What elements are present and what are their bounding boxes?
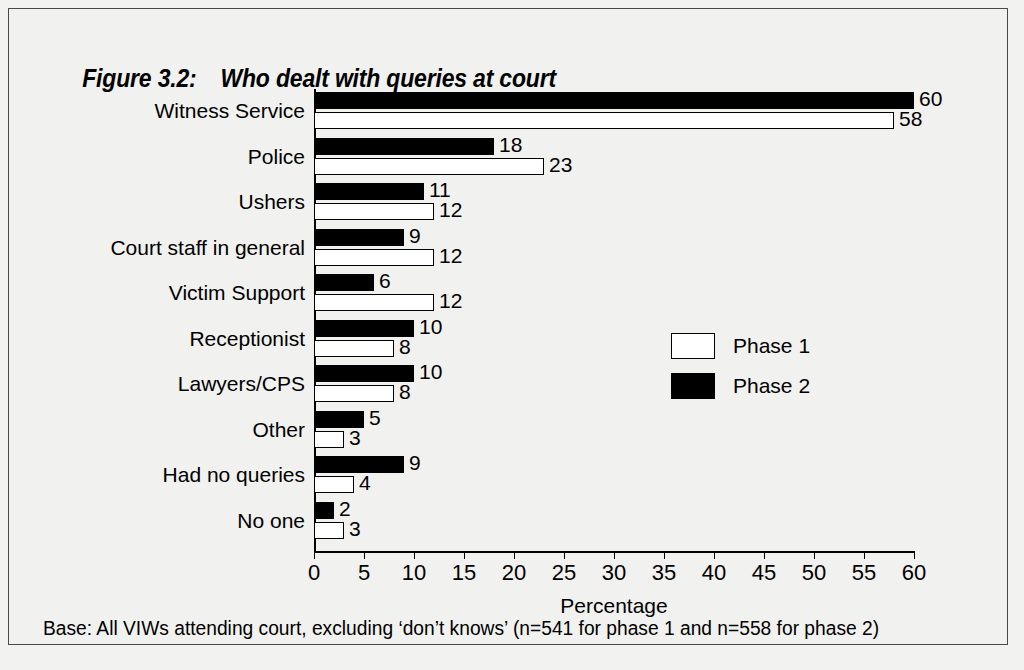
category-label: Ushers — [238, 191, 305, 213]
x-tick — [714, 551, 715, 559]
x-tick — [764, 551, 765, 559]
x-tick-label: 60 — [894, 561, 934, 585]
legend-label: Phase 1 — [733, 331, 810, 361]
x-tick — [664, 551, 665, 559]
legend-swatch-phase1 — [671, 333, 715, 359]
bar-value-label: 12 — [439, 247, 462, 264]
bar-value-label: 11 — [429, 181, 451, 198]
bar-value-label: 2 — [339, 500, 351, 517]
chart-plot-area: Witness Service6058Police1823Ushers1112C… — [314, 89, 914, 551]
category-label: Court staff in general — [110, 237, 305, 259]
bar-value-label: 3 — [349, 520, 361, 537]
figure-frame: Figure 3.2:Who dealt with queries at cou… — [8, 8, 1008, 645]
bar-phase-1 — [314, 158, 544, 175]
bar-phase-2 — [314, 229, 404, 246]
bar-phase-1 — [314, 249, 434, 266]
bar-value-label: 60 — [919, 90, 942, 107]
bar-value-label: 9 — [409, 227, 421, 244]
x-tick-label: 45 — [744, 561, 784, 585]
bar-phase-1 — [314, 294, 434, 311]
bar-value-label: 3 — [349, 429, 361, 446]
legend-swatch-phase2 — [671, 373, 715, 399]
x-axis-label: Percentage — [314, 594, 914, 618]
bar-phase-1 — [314, 431, 344, 448]
bar-phase-2 — [314, 411, 364, 428]
x-tick — [914, 551, 915, 559]
bar-phase-2 — [314, 92, 914, 109]
x-tick-label: 20 — [494, 561, 534, 585]
category-label: Had no queries — [163, 464, 305, 486]
bar-value-label: 8 — [399, 338, 411, 355]
x-tick — [614, 551, 615, 559]
bar-phase-1 — [314, 385, 394, 402]
x-tick-label: 15 — [444, 561, 484, 585]
bar-value-label: 23 — [549, 156, 572, 173]
bar-phase-1 — [314, 112, 894, 129]
category-label: No one — [237, 510, 305, 532]
bar-phase-2 — [314, 274, 374, 291]
figure-page: Figure 3.2:Who dealt with queries at cou… — [0, 0, 1024, 670]
x-tick — [514, 551, 515, 559]
x-tick — [414, 551, 415, 559]
category-label: Victim Support — [169, 282, 305, 304]
category-label: Receptionist — [189, 328, 305, 350]
x-tick-label: 0 — [294, 561, 334, 585]
category-label: Lawyers/CPS — [178, 373, 305, 395]
x-tick — [314, 551, 315, 559]
figure-footnote: Base: All VIWs attending court, excludin… — [43, 617, 879, 640]
x-tick-label: 10 — [394, 561, 434, 585]
bar-value-label: 8 — [399, 383, 411, 400]
x-tick — [564, 551, 565, 559]
bar-value-label: 10 — [419, 318, 442, 335]
x-tick — [814, 551, 815, 559]
x-tick-label: 50 — [794, 561, 834, 585]
category-label: Witness Service — [154, 100, 305, 122]
x-tick-label: 25 — [544, 561, 584, 585]
bar-value-label: 58 — [899, 110, 922, 127]
figure-number: Figure 3.2: — [82, 64, 196, 92]
x-tick — [364, 551, 365, 559]
bar-phase-2 — [314, 183, 424, 200]
bar-phase-1 — [314, 522, 344, 539]
x-tick — [864, 551, 865, 559]
bar-phase-1 — [314, 476, 354, 493]
x-tick — [464, 551, 465, 559]
x-tick-label: 40 — [694, 561, 734, 585]
bar-value-label: 10 — [419, 363, 442, 380]
bar-phase-2 — [314, 320, 414, 337]
bar-phase-2 — [314, 502, 334, 519]
x-tick-label: 5 — [344, 561, 384, 585]
bar-value-label: 6 — [379, 272, 391, 289]
bar-value-label: 18 — [499, 136, 522, 153]
legend-label: Phase 2 — [733, 371, 810, 401]
bar-value-label: 12 — [439, 292, 462, 309]
bar-phase-1 — [314, 340, 394, 357]
figure-title-text: Who dealt with queries at court — [220, 64, 555, 92]
bar-phase-2 — [314, 138, 494, 155]
x-tick-label: 35 — [644, 561, 684, 585]
x-tick-label: 30 — [594, 561, 634, 585]
category-label: Police — [248, 146, 305, 168]
bar-value-label: 5 — [369, 409, 381, 426]
bar-phase-1 — [314, 203, 434, 220]
category-label: Other — [252, 419, 305, 441]
x-tick-label: 55 — [844, 561, 884, 585]
bar-value-label: 9 — [409, 454, 421, 471]
bar-value-label: 12 — [439, 201, 462, 218]
bar-value-label: 4 — [359, 474, 371, 491]
